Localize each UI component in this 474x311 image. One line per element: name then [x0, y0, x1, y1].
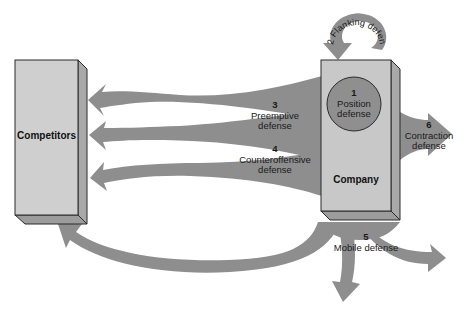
- company-label: Company: [321, 174, 391, 185]
- mobile-defense-label: 5 Mobile defense: [326, 232, 406, 253]
- fan-arrows-preemptive-counteroffensive: [88, 76, 322, 196]
- competitors-box: [15, 60, 87, 224]
- competitors-label: Competitors: [15, 130, 78, 141]
- flanking-defense-arrow: [323, 13, 386, 60]
- company-box: [321, 60, 400, 220]
- contraction-defense-label: 6 Contraction defense: [401, 120, 457, 152]
- position-defense-label: 1 Position defense: [327, 88, 381, 120]
- preemptive-defense-label: 3 Preemptive defense: [240, 100, 310, 132]
- counteroffensive-defense-label: 4 Counteroffensive defense: [232, 144, 318, 176]
